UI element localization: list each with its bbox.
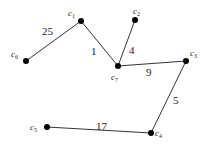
node-label: c2 (133, 6, 140, 17)
edge-c6-c1 (26, 21, 81, 61)
node-c4 (148, 130, 154, 136)
edge-weight-label: 9 (146, 66, 152, 78)
edge-c3-c4 (151, 61, 186, 133)
edge-weight-label: 1 (91, 45, 97, 57)
node-c1 (78, 18, 84, 24)
node-c2 (132, 17, 138, 23)
edge-c2-c7 (118, 20, 135, 66)
node-label: c6 (11, 49, 18, 60)
node-label: c4 (155, 128, 162, 139)
edge-weight-label: 4 (129, 44, 135, 56)
node-label: c1 (68, 8, 75, 19)
node-c6 (23, 58, 29, 64)
edge-c7-c3 (118, 61, 186, 66)
edge-weight-label: 17 (96, 120, 108, 132)
edge-c1-c7 (81, 21, 118, 66)
node-c5 (44, 124, 50, 130)
weighted-graph: 25149517c1c2c3c4c5c6c7 (0, 0, 203, 147)
node-c7 (115, 63, 121, 69)
edge-weight-label: 5 (173, 94, 179, 106)
edge-weight-label: 25 (42, 25, 54, 37)
node-c3 (183, 58, 189, 64)
node-label: c7 (111, 72, 118, 83)
node-label: c5 (30, 122, 37, 133)
node-label: c3 (190, 48, 197, 59)
